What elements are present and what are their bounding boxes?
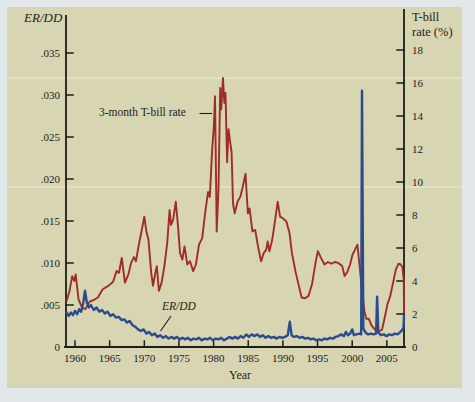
axes bbox=[65, 10, 405, 347]
right-axis-tick-label: 14 bbox=[412, 110, 423, 122]
right-axis-title-line1: T-bill bbox=[412, 10, 453, 25]
erdd-line-series bbox=[67, 91, 404, 340]
right-axis-tick-label: 12 bbox=[412, 143, 423, 155]
left-axis-tick-label: .020 bbox=[26, 173, 60, 185]
right-axis-title-line2: rate (%) bbox=[412, 25, 453, 40]
right-axis-tick-label: 18 bbox=[412, 44, 423, 56]
x-axis-tick-label: 1995 bbox=[300, 352, 336, 364]
right-axis-tick-label: 10 bbox=[412, 176, 423, 188]
left-axis-tick-label: .005 bbox=[26, 299, 60, 311]
x-axis-tick-label: 2005 bbox=[369, 352, 405, 364]
left-axis-tick-label: .015 bbox=[26, 215, 60, 227]
right-axis-tick-label: 2 bbox=[412, 308, 418, 320]
x-axis-tick-label: 1965 bbox=[92, 352, 128, 364]
left-axis-tick-label: .030 bbox=[26, 89, 60, 101]
right-axis-tick-label: 0 bbox=[412, 341, 418, 353]
x-axis-tick-label: 1985 bbox=[230, 352, 266, 364]
left-axis-tick-label: .025 bbox=[26, 131, 60, 143]
tbill-series-annotation: 3-month T-bill rate bbox=[99, 106, 186, 118]
x-axis-title: Year bbox=[206, 368, 274, 383]
right-axis-title: T-bill rate (%) bbox=[412, 10, 453, 40]
x-axis-tick-label: 2000 bbox=[334, 352, 370, 364]
figure-excess-reserves-tbill-chart: ER/DD T-bill rate (%) 3-month T-bill rat… bbox=[0, 0, 475, 402]
left-axis-tick-label: .035 bbox=[26, 47, 60, 59]
erdd-annotation-pointer-line bbox=[161, 316, 172, 331]
x-axis-tick-label: 1960 bbox=[57, 352, 93, 364]
right-axis-tick-label: 16 bbox=[412, 77, 423, 89]
erdd-series-annotation: ER/DD bbox=[162, 300, 196, 312]
x-axis-tick-label: 1990 bbox=[265, 352, 301, 364]
left-axis-title: ER/DD bbox=[24, 10, 62, 26]
left-axis-tick-label: 0 bbox=[26, 341, 60, 353]
tick-marks bbox=[66, 50, 404, 347]
x-axis-tick-label: 1970 bbox=[126, 352, 162, 364]
x-axis-tick-label: 1980 bbox=[196, 352, 232, 364]
plot-svg bbox=[0, 0, 475, 402]
x-axis-tick-label: 1975 bbox=[161, 352, 197, 364]
right-axis-tick-label: 8 bbox=[412, 209, 418, 221]
left-axis-tick-label: .010 bbox=[26, 257, 60, 269]
right-axis-tick-label: 4 bbox=[412, 275, 418, 287]
right-axis-tick-label: 6 bbox=[412, 242, 418, 254]
